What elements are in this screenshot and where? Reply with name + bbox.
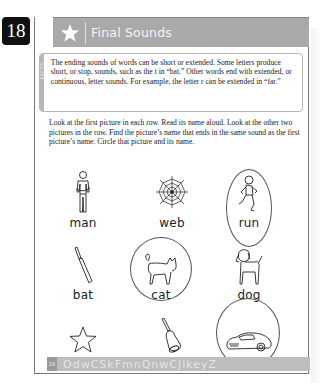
bell-icon [159,318,185,354]
page-number-badge: 18 [2,17,30,45]
footer-page-number: 18 [47,357,57,371]
picture-item[interactable]: man [43,170,123,236]
footer-bar: 18 OdwCSkFmnQnwCJikeyZ [47,357,310,371]
cat-icon [143,252,179,286]
page-title: Final Sounds [91,25,172,40]
car-icon [225,330,273,354]
picture-word: man [69,216,96,230]
star-outline-icon [69,326,97,354]
spider-web-icon [155,175,189,209]
facts-text: The ending sounds of words can be short … [44,54,302,111]
picture-item[interactable]: web [132,170,212,236]
running-boy-icon [237,174,261,214]
picture-word: bat [73,288,93,302]
star-icon [60,23,80,43]
picture-item[interactable]: bat [43,242,123,308]
picture-item[interactable]: cat [121,242,201,308]
picture-item[interactable]: run [209,170,289,236]
dog-icon [233,248,265,286]
facts-box: FACTS The ending sounds of words can be … [39,53,303,112]
facts-label: FACTS [39,63,45,80]
worksheet-page: Final Sounds FACTS The ending sounds of … [34,17,309,374]
picture-grid: man web [35,170,310,365]
next-page-shadow [311,28,321,383]
facts-tab: FACTS [40,54,44,111]
picture-word: web [159,216,184,230]
picture-word: run [239,216,260,230]
cricket-bat-icon [72,246,94,286]
footer-decorative-letters: OdwCSkFmnQnwCJikeyZ [63,358,217,371]
header-divider [85,22,86,44]
man-icon [72,170,94,214]
picture-word: cat [151,288,170,302]
instructions: Look at the first picture in each row. R… [49,118,304,147]
header-bar: Final Sounds [53,17,309,47]
